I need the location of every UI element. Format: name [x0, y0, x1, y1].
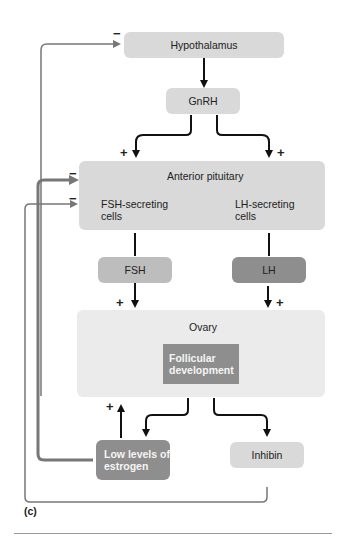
- gnrh-box: GnRH: [166, 88, 240, 114]
- gnrh-label: GnRH: [188, 95, 217, 107]
- minus-sign-estrogen: −: [69, 168, 77, 180]
- hypothalamus-label: Hypothalamus: [170, 39, 237, 51]
- plus-sign-lh-ovary: +: [276, 297, 284, 309]
- minus-sign-inhibin: −: [69, 193, 77, 205]
- lh-label: LH: [262, 264, 275, 276]
- lh-cells-label: LH-secreting cells: [235, 198, 315, 222]
- low-estrogen-box: Low levels of estrogen: [96, 440, 170, 480]
- lh-box: LH: [232, 257, 306, 283]
- anterior-pituitary-box: Anterior pituitary FSH-secreting cells L…: [79, 161, 325, 230]
- fsh-box: FSH: [98, 257, 172, 283]
- inhibin-label: Inhibin: [252, 449, 283, 461]
- inhibin-box: Inhibin: [230, 442, 304, 468]
- follicular-development-box: Follicular development: [163, 344, 239, 384]
- ovary-label: Ovary: [189, 321, 217, 333]
- low-estrogen-label: Low levels of estrogen: [104, 448, 170, 472]
- ovary-box: Ovary Follicular development: [77, 310, 325, 397]
- plus-sign-gnrh-lh: +: [277, 147, 285, 159]
- follicular-development-label: Follicular development: [169, 352, 239, 376]
- anterior-pituitary-label: Anterior pituitary: [167, 170, 243, 182]
- hypothalamus-box: Hypothalamus: [124, 32, 284, 58]
- minus-sign-hypothalamus: −: [113, 28, 121, 40]
- panel-label: (c): [24, 505, 37, 517]
- plus-sign-gnrh-fsh: +: [120, 147, 128, 159]
- plus-sign-estrogen-ovary: +: [106, 401, 114, 413]
- fsh-cells-label: FSH-secreting cells: [101, 198, 181, 222]
- bottom-divider: [14, 533, 332, 534]
- fsh-label: FSH: [125, 264, 146, 276]
- plus-sign-fsh-ovary: +: [116, 297, 124, 309]
